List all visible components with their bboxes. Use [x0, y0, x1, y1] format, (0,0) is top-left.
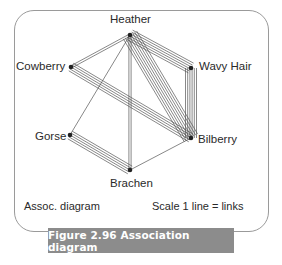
link-brachen-bilberry [130, 138, 191, 170]
footer-assoc-diagram: Assoc. diagram [24, 200, 100, 212]
link-heather-cowberry [70, 34, 130, 68]
node-label-gorse: Gorse [35, 130, 66, 142]
node-wavy_hair [189, 66, 194, 71]
footer-scale-legend: Scale 1 line = links [152, 200, 243, 212]
node-brachen [128, 168, 133, 173]
node-bilberry [189, 136, 194, 141]
node-label-cowberry: Cowberry [16, 60, 65, 72]
node-label-heather: Heather [110, 13, 151, 25]
node-heather [128, 33, 133, 38]
node-label-brachen: Brachen [110, 177, 153, 189]
link-gorse-brachen [68, 131, 132, 174]
node-label-bilberry: Bilberry [198, 133, 237, 145]
node-label-wavy-hair: Wavy Hair [199, 60, 252, 72]
figure-caption: Figure 2.96 Association diagram [48, 228, 234, 253]
node-cowberry [69, 65, 74, 70]
node-gorse [68, 133, 73, 138]
